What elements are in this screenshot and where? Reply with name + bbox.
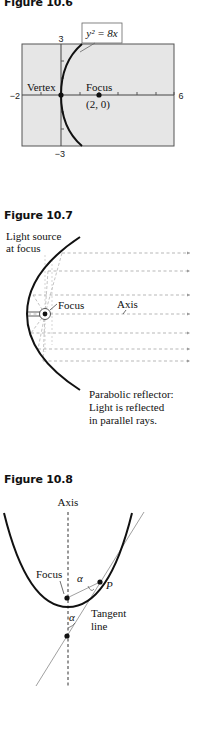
axis-label: Axis xyxy=(58,496,79,508)
axis-label: Axis xyxy=(117,298,138,310)
x-min-label: −2 xyxy=(10,91,20,101)
light-bulb-icon xyxy=(28,309,51,320)
figure-10-8-tangent-diagram: Axis Focus α P α Tangent line xyxy=(0,490,200,720)
focus-label: Focus xyxy=(58,299,84,311)
tangent-label-line1: Tangent xyxy=(91,607,126,619)
figure-10-7-heading: Figure 10.7 xyxy=(4,209,73,222)
y-min-label: −3 xyxy=(55,149,65,159)
light-source-label-line2: at focus xyxy=(6,242,41,254)
vertex-point xyxy=(58,92,63,97)
caption-line2: Light is reflected xyxy=(89,401,165,413)
figure-10-6-graph: y² = 8x 3 −3 −2 6 Vertex Focus (2, 0) xyxy=(0,10,200,180)
caption-line1: Parabolic reflector: xyxy=(89,388,174,400)
focus-label: Focus xyxy=(86,81,112,93)
focus-leader xyxy=(50,304,57,310)
tangent-axis-intersection xyxy=(64,633,69,638)
alpha-label-top: α xyxy=(77,572,83,584)
point-p xyxy=(97,579,102,584)
caption-line3: in parallel rays. xyxy=(89,414,157,426)
figure-10-8-heading: Figure 10.8 xyxy=(4,473,73,486)
focus-coords-label: (2, 0) xyxy=(86,98,110,111)
y-max-label: 3 xyxy=(58,34,63,44)
x-max-label: 6 xyxy=(178,91,183,101)
focus-point xyxy=(64,595,69,600)
focus-leader xyxy=(60,581,64,594)
focus-point xyxy=(96,92,101,97)
figure-10-7-reflector-diagram: Light source at focus Focus Axis Parabol… xyxy=(0,225,200,465)
parabolic-reflector-curve xyxy=(27,237,80,390)
axis-leader xyxy=(123,310,126,314)
figure-10-6-heading: Figure 10.6 xyxy=(4,0,73,9)
vertex-label: Vertex xyxy=(27,81,56,93)
point-p-label: P xyxy=(105,579,113,591)
equation-label: y² = 8x xyxy=(85,27,118,39)
alpha-label-bottom: α xyxy=(69,611,75,623)
parabola-curve-main xyxy=(4,513,132,607)
focus-label: Focus xyxy=(36,568,62,580)
light-source-label-line1: Light source xyxy=(6,230,61,242)
tangent-label-line2: line xyxy=(91,620,108,632)
